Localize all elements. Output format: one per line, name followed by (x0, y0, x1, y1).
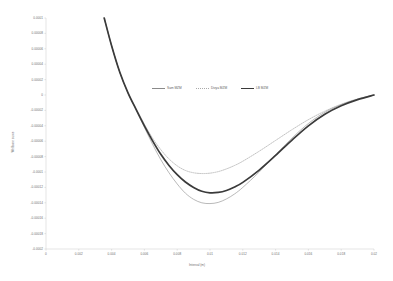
legend-swatch-lb-mzm (241, 88, 254, 89)
x-axis-title: Interval (m) (189, 263, 205, 267)
y-axis-tick-label: 0.00008 (0, 31, 43, 35)
x-axis-tick-label: 0.018 (337, 252, 345, 256)
y-axis-tick-label: -0.00016 (0, 216, 43, 220)
y-axis-tick-label: -0.0002 (0, 247, 43, 251)
x-axis-tick-label: 0.01 (207, 252, 213, 256)
y-axis-tick-label: -0.00002 (0, 108, 43, 112)
x-axis-tick-label: 0.02 (371, 252, 377, 256)
legend-item-divya-mzm[interactable]: Divya MZM (196, 86, 227, 90)
chart-container: 0.00010.000080.000060.000040.000020-0.00… (0, 0, 393, 281)
series-line-lb-mzm (104, 18, 374, 193)
y-axis-title: Wellbore curve (11, 131, 15, 152)
x-axis-tick-label: 0.004 (108, 252, 116, 256)
x-axis-tick-label: 0.014 (272, 252, 280, 256)
y-axis-tick-label: 0 (0, 93, 43, 97)
legend-swatch-divya-mzm (196, 88, 209, 89)
y-axis-tick-label: -0.00004 (0, 124, 43, 128)
legend-item-lb-mzm[interactable]: LB MZM (241, 86, 268, 90)
y-axis-tick-label: -0.00008 (0, 155, 43, 159)
series-line-sam-mzm (104, 18, 374, 204)
chart-plot-area (0, 0, 393, 281)
x-axis-tick-label: 0.008 (173, 252, 181, 256)
legend-swatch-sam-mzm (152, 88, 165, 89)
legend-label-sam-mzm: Sam MZM (167, 86, 182, 90)
legend-item-sam-mzm[interactable]: Sam MZM (152, 86, 182, 90)
y-axis-tick-label: -0.00014 (0, 201, 43, 205)
data-series-group (104, 18, 374, 204)
y-axis-tick-label: -0.00018 (0, 232, 43, 236)
x-axis-tick-label: 0.006 (140, 252, 148, 256)
y-axis-tick-label: 0.0001 (0, 16, 43, 20)
x-axis-tick-label: 0.012 (239, 252, 247, 256)
x-axis-tick-label: 0 (45, 252, 47, 256)
x-axis-tick-label: 0.016 (304, 252, 312, 256)
y-axis-tick-label: 0.00002 (0, 78, 43, 82)
legend-label-lb-mzm: LB MZM (256, 86, 268, 90)
y-axis-tick-label: -0.00012 (0, 185, 43, 189)
y-axis-tick-label: 0.00006 (0, 47, 43, 51)
y-axis-tick-label: -0.0001 (0, 170, 43, 174)
legend-label-divya-mzm: Divya MZM (211, 86, 227, 90)
y-axis-tick-label: -0.00006 (0, 139, 43, 143)
x-axis-tick-label: 0.002 (75, 252, 83, 256)
series-line-divya-mzm (104, 18, 374, 174)
y-axis-tick-label: 0.00004 (0, 62, 43, 66)
axis-lines (46, 18, 374, 249)
